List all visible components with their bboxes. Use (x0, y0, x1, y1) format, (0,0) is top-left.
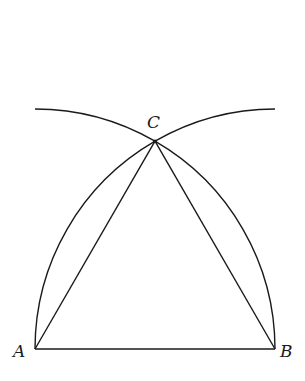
segment-ac (35, 141, 155, 349)
label-b: B (279, 341, 293, 361)
diagram-canvas: A B C (0, 0, 305, 381)
label-a: A (11, 341, 25, 361)
point-c-marker (153, 139, 157, 143)
label-c: C (147, 112, 160, 132)
segment-bc (155, 141, 275, 349)
arc-centered-a-upper (35, 109, 155, 141)
arc-centered-b-upper (155, 109, 275, 141)
